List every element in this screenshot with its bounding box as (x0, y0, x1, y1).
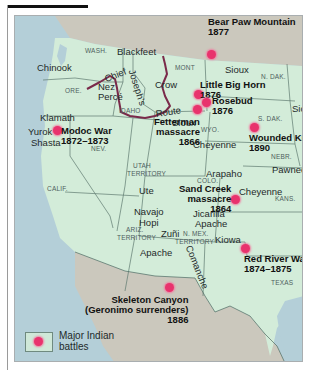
state-label-nev: NEV. (91, 146, 106, 153)
tribe-label-ute: Ute (139, 186, 154, 196)
battle-label-red-river: Red River War 1874–1875 (244, 254, 303, 274)
battle-marker-sand-creek (231, 195, 240, 204)
legend-swatch (25, 332, 53, 352)
battle-marker-rosebud (202, 98, 211, 107)
tribe-label-chinook: Chinook (37, 63, 72, 73)
state-label-idaho: IDAHO (119, 108, 141, 115)
tribe-label-apache: Apache (140, 248, 172, 258)
tribe-label-arapaho: Arapaho (206, 169, 242, 179)
state-label-utah-territory: TERRITORY (127, 171, 166, 178)
tribe-label-cheyenne-kans: Cheyenne (239, 187, 282, 197)
left-rule (7, 5, 8, 370)
battle-label-sand-creek: Sand Creek massacre 1864 (179, 184, 231, 214)
battle-marker-wounded-knee (250, 123, 259, 132)
state-label-texas: TEXAS (271, 280, 293, 287)
tribe-label-perce: Percé (98, 92, 123, 102)
state-label-mont: MONT (175, 65, 195, 72)
battle-marker-bear-paw (207, 50, 216, 59)
battle-label-bear-paw: Bear Paw Mountain 1877 (208, 17, 296, 37)
battle-label-fetterman: Fetterman massacre 1866 (154, 117, 200, 147)
tribe-label-crow: Crow (155, 80, 177, 90)
map-frame: WASH. ORE. IDAHO MONT N. DAK. S. DAK. WY… (14, 15, 303, 362)
state-label-wash: WASH. (85, 48, 107, 55)
map-legend: Major Indian battles (25, 331, 114, 352)
header-rule (7, 5, 88, 8)
state-label-wyo: WYO. (201, 127, 219, 134)
tribe-label-sioux-sdak: Sioux (292, 104, 303, 114)
battle-label-rosebud: Rosebud 1876 (212, 96, 253, 116)
state-label-utah: UTAH (133, 163, 151, 170)
tribe-label-navajo: Navajo (134, 207, 164, 217)
state-label-nebr: NEBR. (271, 154, 292, 161)
state-label-n-mex: N. MEX. (183, 231, 209, 238)
tribe-label-shasta: Shasta (31, 138, 61, 148)
tribe-label-pawnee: Pawnee (272, 165, 303, 175)
tribe-label-yurok: Yurok (28, 127, 52, 137)
state-label-s-dak: S. DAK. (258, 116, 283, 123)
battle-label-wounded-knee: Wounded Knee 1890 (249, 133, 303, 153)
state-label-ore: ORE. (65, 88, 82, 95)
tribe-label-klamath: Klamath (40, 113, 75, 123)
tribe-label-zuni: Zuñi (161, 229, 179, 239)
battle-marker-red-river (241, 244, 250, 253)
battle-marker-fetterman (193, 105, 202, 114)
tribe-label-kiowa: Kiowa (215, 235, 241, 245)
state-label-ariz-territory: TERRITORY (117, 235, 156, 242)
tribe-label-jicarilla-apache: Apache (195, 219, 227, 229)
legend-battle-marker-icon (34, 337, 43, 346)
legend-text: Major Indian battles (59, 331, 114, 352)
tribe-label-sioux-mont: Sioux (225, 65, 249, 75)
tribe-label-hopi: Hopi (139, 218, 159, 228)
tribe-label-blackfeet: Blackfeet (117, 47, 156, 57)
battle-label-modoc: Modoc War 1872–1873 (61, 126, 112, 146)
state-label-calif: CALIF. (47, 186, 68, 193)
battle-label-skeleton-canyon: Skeleton Canyon (Geronimo surrenders) 18… (85, 295, 188, 325)
battle-marker-skeleton-canyon (165, 283, 174, 292)
